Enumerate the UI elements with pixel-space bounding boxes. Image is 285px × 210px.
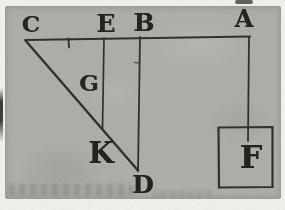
line-CA [26,37,251,41]
point-label-D: D [132,172,154,197]
line-BD [138,37,140,171]
point-label-E: E [96,11,115,36]
weight-label-F: F [240,141,263,173]
line-A-cord [248,37,249,141]
point-label-A: A [235,7,254,31]
line-CD [26,41,139,171]
point-label-K: K [88,139,113,168]
point-label-B: B [133,10,154,35]
line-E-drop [103,38,105,130]
point-label-G: G [79,71,99,94]
point-label-C: C [22,12,40,35]
tick-mark-B-line [135,63,140,64]
tick-mark-top-rail [69,39,70,48]
scanned-figure-page: C E B A G K D F [0,0,285,210]
